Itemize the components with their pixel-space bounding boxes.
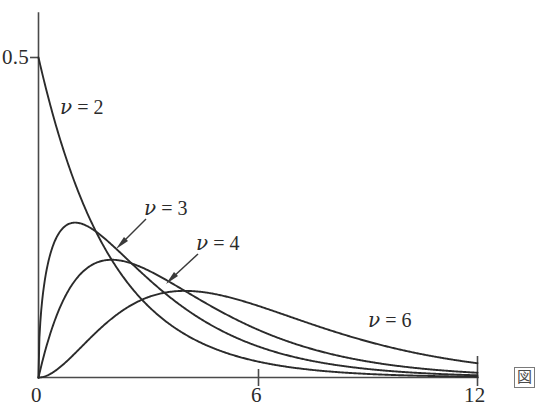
y-axis-tick-label-05: 0.5 [2,45,29,70]
nu-value: 4 [229,232,239,254]
x-axis-tick-label-6: 6 [251,383,262,408]
annotation-arrow-nu-3 [116,219,146,249]
equals-sign: = [72,96,93,118]
nu-value: 6 [401,309,411,331]
equals-sign: = [380,309,401,331]
chart-figure: 0.5 0 6 12 ν = 2 ν = 3 ν = 4 ν = 6 図 [0,0,547,415]
curve-nu-6 [39,291,478,378]
curve-label-nu-3: ν = 3 [144,196,187,220]
x-axis-tick-label-12: 12 [464,383,486,408]
curve-label-nu-4: ν = 4 [196,231,239,255]
annotation-arrow-nu-4 [166,254,198,284]
equals-sign: = [156,197,177,219]
corner-boxed-glyph: 図 [514,367,535,388]
equals-sign: = [208,232,229,254]
nu-symbol: ν [368,308,380,332]
curve-label-nu-2: ν = 2 [60,95,103,119]
nu-symbol: ν [196,231,208,255]
nu-symbol: ν [144,196,156,220]
curve-label-nu-6: ν = 6 [368,308,411,332]
nu-value: 2 [93,96,103,118]
nu-value: 3 [177,197,187,219]
curve-nu-4 [39,260,478,378]
x-axis-tick-label-0: 0 [31,383,42,408]
chart-canvas [0,0,547,415]
nu-symbol: ν [60,95,72,119]
